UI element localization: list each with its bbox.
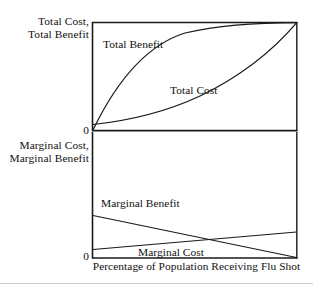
bottom-panel-axes — [92, 132, 298, 259]
top-panel-axes — [92, 22, 298, 131]
marginal-benefit-line — [93, 216, 297, 258]
total-cost-curve — [93, 23, 297, 125]
total-benefit-curve — [93, 23, 297, 130]
figure-bottom-rule — [0, 283, 313, 284]
plot-drawing-area — [0, 0, 313, 290]
flu-shot-cost-benefit-figure: Total Cost, Total Benefit Marginal Cost,… — [0, 0, 313, 290]
marginal-cost-line — [93, 232, 297, 250]
